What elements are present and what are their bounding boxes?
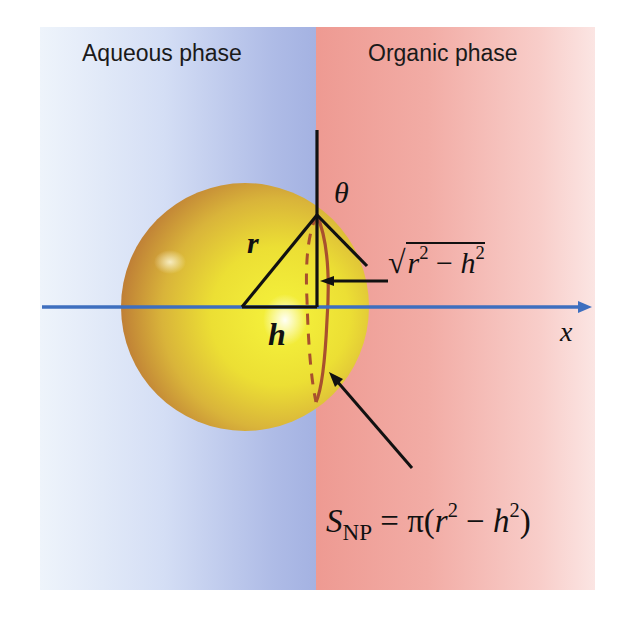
- radicand-minus: −: [429, 246, 461, 279]
- theta-label: θ: [334, 178, 349, 208]
- formula-r: r: [435, 503, 448, 539]
- formula-h: h: [493, 503, 510, 539]
- area-symbol: S: [326, 503, 343, 539]
- radicand-r-exponent: 2: [419, 242, 428, 263]
- formula-h-exponent: 2: [509, 499, 519, 521]
- formula-close-paren: ): [520, 503, 531, 539]
- area-pointer-arrow: [329, 372, 412, 468]
- equals-pi: = π(: [372, 503, 435, 539]
- area-subscript: NP: [343, 519, 373, 545]
- radicand-h: h: [460, 246, 475, 279]
- radicand-h-exponent: 2: [475, 242, 484, 263]
- x-axis-label: x: [560, 318, 572, 346]
- radical-sign: √: [388, 244, 406, 280]
- radicand: r2 − h2: [406, 242, 485, 279]
- formula-r-exponent: 2: [448, 499, 458, 521]
- radius-label: r: [247, 228, 259, 258]
- half-chord-expression: √r2 − h2: [388, 244, 485, 278]
- offset-label: h: [268, 318, 286, 350]
- area-formula: SNP = π(r2 − h2): [326, 500, 531, 545]
- radicand-r: r: [408, 246, 420, 279]
- formula-minus: −: [458, 503, 493, 539]
- diagram-stage: Aqueous phase Organic phase: [0, 0, 624, 624]
